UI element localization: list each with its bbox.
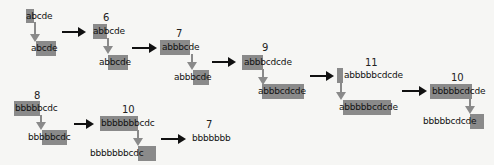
top-string: bbbbbbbcdc [101,118,155,129]
step-count: 8 [34,90,40,101]
highlight-box [337,68,343,83]
right-arrow-icon [161,138,182,140]
bottom-string: abbbcde [174,72,211,83]
bottom-string: abcde [31,43,57,54]
top-string: bbbbbbb [192,133,231,144]
step-count: 6 [103,12,109,23]
bottom-string: abbcde [99,57,131,68]
top-string: bbbbbcdc [15,103,58,114]
bottom-string: abbbbbcdcde [339,102,398,113]
top-string: abbcde [93,26,125,37]
down-arrow-icon [465,106,475,114]
step-count: 11 [365,57,378,68]
step-count: 10 [122,104,135,115]
right-arrow-icon [132,47,153,49]
bottom-string: bbbbbcdcde [423,116,476,127]
right-arrow-icon [62,31,82,33]
right-arrow-icon [74,123,90,125]
top-string: abcde [26,11,52,22]
down-arrow-icon [133,138,143,146]
top-string: abbbcdcde [244,57,292,68]
step-count: 7 [176,28,182,39]
step-count: 7 [206,119,212,130]
bottom-string: abbbcdcde [258,86,306,97]
right-arrow-icon [310,75,330,77]
bottom-string: bbbbbbbcdc [90,148,144,159]
top-string: abbbcde [162,42,199,53]
step-count: 10 [451,72,464,83]
top-string: abbbbbcdcde [344,70,403,81]
down-arrow-icon [336,92,346,100]
bottom-string: bbbbbcdc [28,132,71,143]
down-arrow-icon [103,46,113,54]
down-arrow-icon [36,122,46,130]
right-arrow-icon [402,90,423,92]
down-arrow-icon [187,62,197,70]
right-arrow-icon [212,61,232,63]
top-string: bbbbbcdcde [432,86,485,97]
step-count: 9 [262,42,268,53]
